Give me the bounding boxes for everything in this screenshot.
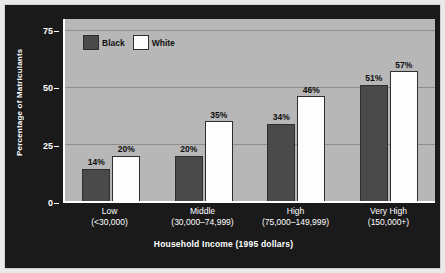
bar-middle-black[interactable] (175, 156, 203, 202)
x-axis-category-labels: Low (<30,000) Middle (30,000–74,999) Hig… (63, 206, 435, 229)
bar-high-white[interactable] (297, 96, 325, 201)
bar-group-high: 34% 46% (250, 19, 343, 201)
plot-area: Black White 14% 20% 20% (63, 19, 435, 203)
y-tick-0: 0 (48, 198, 53, 208)
bar-value-very-high-white: 57% (395, 60, 412, 70)
bar-low-black[interactable] (82, 169, 110, 201)
x-label-high: High (75,000–149,999) (249, 206, 342, 229)
x-label-high-name: High (249, 206, 342, 217)
y-tick-75: 75 (43, 26, 53, 36)
bar-wrap-low-black: 14% (82, 19, 110, 201)
bar-very-high-black[interactable] (360, 85, 388, 201)
bar-wrap-high-white: 46% (297, 19, 325, 201)
x-axis-title: Household Income (1995 dollars) (5, 239, 442, 249)
bar-wrap-middle-white: 35% (205, 19, 233, 201)
bar-wrap-very-high-white: 57% (390, 19, 418, 201)
bar-high-black[interactable] (267, 124, 295, 201)
bar-value-high-white: 46% (303, 85, 320, 95)
x-label-low-name: Low (63, 206, 156, 217)
bar-value-middle-white: 35% (210, 110, 227, 120)
bar-low-white[interactable] (112, 156, 140, 202)
x-label-high-range: (75,000–149,999) (249, 217, 342, 228)
bar-value-high-black: 34% (273, 112, 290, 122)
x-label-very-high: Very High (150,000+) (342, 206, 435, 229)
bar-groups: 14% 20% 20% 35% (65, 19, 435, 201)
bar-value-middle-black: 20% (180, 144, 197, 154)
bar-value-low-white: 20% (118, 144, 135, 154)
bar-wrap-very-high-black: 51% (360, 19, 388, 201)
bar-wrap-low-white: 20% (112, 19, 140, 201)
bar-group-middle: 20% 35% (158, 19, 251, 201)
y-axis-title: Percentage of Matriculants (10, 5, 28, 200)
bar-value-low-black: 14% (88, 157, 105, 167)
bar-very-high-white[interactable] (390, 71, 418, 201)
x-label-very-high-name: Very High (342, 206, 435, 217)
y-tick-25: 25 (43, 141, 53, 151)
x-label-very-high-range: (150,000+) (342, 217, 435, 228)
bar-value-very-high-black: 51% (365, 73, 382, 83)
y-axis-ticks: 0 25 50 75 (29, 19, 59, 203)
x-label-middle-name: Middle (156, 206, 249, 217)
bar-middle-white[interactable] (205, 121, 233, 201)
bar-group-low: 14% 20% (65, 19, 158, 201)
x-label-middle: Middle (30,000–74,999) (156, 206, 249, 229)
bar-group-very-high: 51% 57% (343, 19, 436, 201)
y-tick-50: 50 (43, 83, 53, 93)
x-label-low-range: (<30,000) (63, 217, 156, 228)
x-label-middle-range: (30,000–74,999) (156, 217, 249, 228)
bar-wrap-high-black: 34% (267, 19, 295, 201)
chart-figure: Percentage of Matriculants 0 25 50 75 Bl… (4, 4, 441, 269)
x-label-low: Low (<30,000) (63, 206, 156, 229)
bar-wrap-middle-black: 20% (175, 19, 203, 201)
